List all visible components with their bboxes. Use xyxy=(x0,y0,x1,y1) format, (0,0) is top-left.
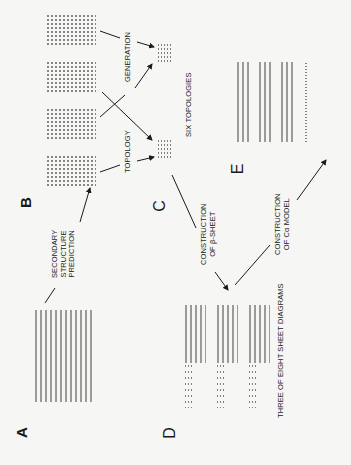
label-construction-ca-model: CONSTRUCTION OF Cα MODEL xyxy=(274,193,291,255)
label-topology: TOPOLOGY xyxy=(124,130,133,173)
label-six-topologies: SIX TOPOLOGIES xyxy=(185,73,194,137)
label-three-of-eight-sheet-diagrams: THREE OF EIGHT SHEET DIAGRAMS xyxy=(277,283,286,418)
label-generation: GENERATION xyxy=(124,32,133,82)
label-secondary-structure-prediction: SECONDARY STRUCTURE PREDICTION xyxy=(51,230,77,278)
label-construction-beta-sheet: CONSTRUCTION OF β-SHEET xyxy=(200,203,217,265)
